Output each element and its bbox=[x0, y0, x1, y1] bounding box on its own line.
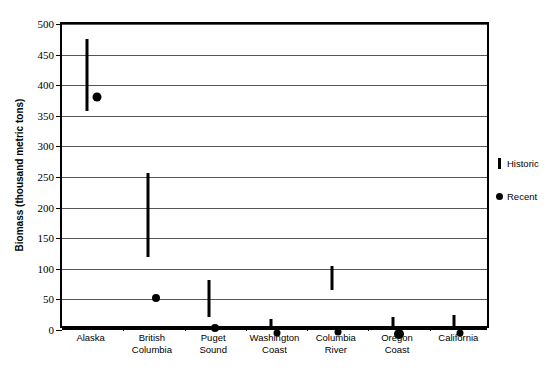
x-axis-label-line: River bbox=[301, 344, 371, 356]
y-tick-label: 300 bbox=[38, 140, 55, 152]
y-axis-title: Biomass (thousand metric tons) bbox=[12, 80, 28, 270]
recent-point bbox=[152, 294, 160, 302]
y-tick-mark bbox=[56, 85, 62, 86]
y-tick-mark bbox=[56, 24, 62, 25]
legend-label: Historic bbox=[507, 158, 539, 169]
plot-area: 050100150200250300350400450500 bbox=[60, 22, 489, 328]
y-tick-mark bbox=[56, 146, 62, 147]
historic-range-bar bbox=[453, 315, 456, 328]
historic-range-bar bbox=[208, 280, 211, 317]
y-tick-label: 500 bbox=[38, 18, 55, 30]
x-axis-labels: AlaskaBritishColumbiaPugetSoundWashingto… bbox=[60, 332, 489, 374]
gridline bbox=[62, 55, 487, 56]
x-axis-label: BritishColumbia bbox=[117, 332, 187, 356]
gridline bbox=[62, 146, 487, 147]
y-tick-label: 350 bbox=[38, 110, 55, 122]
x-axis-label-line: Columbia bbox=[117, 344, 187, 356]
x-axis-label-line: Sound bbox=[178, 344, 248, 356]
y-tick-mark bbox=[56, 269, 62, 270]
gridline bbox=[62, 177, 487, 178]
x-axis-label-line: Coast bbox=[240, 344, 310, 356]
y-tick-mark bbox=[56, 299, 62, 300]
y-tick-mark bbox=[56, 177, 62, 178]
gridline bbox=[62, 299, 487, 300]
legend-item-recent[interactable]: Recent bbox=[498, 189, 556, 203]
historic-range-bar bbox=[146, 173, 149, 257]
chart-legend: HistoricRecent bbox=[498, 156, 556, 222]
y-tick-label: 50 bbox=[43, 293, 54, 305]
legend-label: Recent bbox=[507, 191, 537, 202]
x-axis-label: California bbox=[423, 332, 493, 344]
y-tick-label: 450 bbox=[38, 49, 55, 61]
gridline bbox=[62, 269, 487, 270]
x-tick-mark bbox=[246, 326, 247, 331]
x-axis-label-line: Alaska bbox=[56, 332, 126, 344]
y-tick-label: 100 bbox=[38, 263, 55, 275]
y-tick-mark bbox=[56, 330, 62, 331]
x-axis-label: WashingtonCoast bbox=[240, 332, 310, 356]
x-axis-label-line: Coast bbox=[362, 344, 432, 356]
x-axis-label: OregonCoast bbox=[362, 332, 432, 356]
gridline bbox=[62, 24, 487, 25]
x-axis-label-line: Oregon bbox=[362, 332, 432, 344]
y-tick-mark bbox=[56, 208, 62, 209]
y-tick-mark bbox=[56, 116, 62, 117]
recent-point bbox=[92, 93, 101, 102]
x-axis-label-line: Puget bbox=[178, 332, 248, 344]
x-tick-mark bbox=[185, 326, 186, 331]
historic-range-bar bbox=[85, 39, 88, 111]
x-axis-label-line: Columbia bbox=[301, 332, 371, 344]
gridline bbox=[62, 238, 487, 239]
recent-dot-icon bbox=[496, 193, 503, 200]
legend-item-historic[interactable]: Historic bbox=[498, 156, 556, 170]
x-tick-mark bbox=[430, 326, 431, 331]
x-axis-label-line: Washington bbox=[240, 332, 310, 344]
historic-range-bar bbox=[392, 317, 395, 330]
y-tick-label: 0 bbox=[49, 324, 55, 336]
historic-bar-icon bbox=[498, 158, 501, 169]
historic-range-bar bbox=[269, 319, 272, 330]
y-tick-label: 400 bbox=[38, 79, 55, 91]
y-tick-label: 250 bbox=[38, 171, 55, 183]
gridline bbox=[62, 208, 487, 209]
x-tick-mark bbox=[123, 326, 124, 331]
x-axis-label: PugetSound bbox=[178, 332, 248, 356]
gridline bbox=[62, 116, 487, 117]
plot-inner: 050100150200250300350400450500 bbox=[62, 24, 487, 326]
x-tick-mark bbox=[307, 326, 308, 331]
x-axis-label: Alaska bbox=[56, 332, 126, 344]
y-tick-mark bbox=[56, 55, 62, 56]
x-axis-label: ColumbiaRiver bbox=[301, 332, 371, 356]
gridline bbox=[62, 85, 487, 86]
chart-page: Biomass (thousand metric tons) 050100150… bbox=[0, 0, 559, 377]
y-tick-mark bbox=[56, 238, 62, 239]
x-axis-label-line: California bbox=[423, 332, 493, 344]
y-tick-label: 200 bbox=[38, 202, 55, 214]
y-tick-label: 150 bbox=[38, 232, 55, 244]
historic-range-bar bbox=[330, 266, 333, 290]
x-tick-mark bbox=[368, 326, 369, 331]
x-axis-label-line: British bbox=[117, 332, 187, 344]
